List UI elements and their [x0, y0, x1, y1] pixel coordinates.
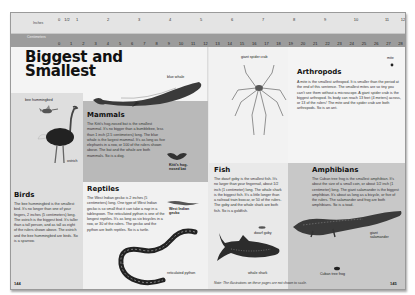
- page-title: Biggest and Smallest: [25, 50, 123, 78]
- birds-text: The bee hummingbird is the smallest bird…: [14, 202, 78, 244]
- caption-mite: mite: [387, 56, 394, 60]
- inch-tick-label: 10: [354, 17, 358, 22]
- caption-bee-hummingbird: bee hummingbird: [25, 98, 53, 102]
- blue-whale-illustration: [91, 80, 201, 108]
- cm-tick-label: 9: [168, 41, 170, 46]
- cm-tick-label: 12: [203, 41, 207, 46]
- amphibians-text: The Cuban tree frog is the smallest amph…: [312, 177, 400, 209]
- cuban-tree-frog-illustration: [333, 266, 341, 271]
- inch-tick-label: 9: [324, 17, 326, 22]
- inch-ruler: Inches 01/2123456789101112: [11, 13, 405, 34]
- caption-giant-salamander: giant salamander: [370, 231, 394, 239]
- dwarf-goby-illustration: [258, 226, 266, 229]
- caption-ostrich: ostrich: [67, 159, 78, 163]
- cm-tick-label: 15: [240, 41, 244, 46]
- cm-tick-label: 10: [179, 41, 183, 46]
- cm-tick-label: 3: [94, 41, 96, 46]
- fish-text: The dwarf goby is the smallest fish. It'…: [214, 177, 282, 214]
- cm-tick-label: 17: [264, 41, 268, 46]
- reptiles-heading: Reptiles: [87, 185, 119, 193]
- arthropods-text: A mite is the smallest arthropod. It is …: [297, 80, 401, 112]
- ostrich-illustration: [33, 105, 83, 165]
- page-number-right: 145: [390, 281, 397, 286]
- page-number-left: 144: [14, 281, 21, 286]
- spider-crab-illustration: [229, 63, 289, 138]
- book-spread: Inches 01/2123456789101112 Centimeters 0…: [10, 12, 406, 290]
- cm-tick-label: 25: [362, 41, 366, 46]
- inch-tick-label: 5: [200, 17, 202, 22]
- cm-tick-label: 20: [301, 41, 305, 46]
- caption-giant-spider-crab: giant spider crab: [241, 55, 268, 59]
- cm-tick-label: 27: [386, 41, 390, 46]
- cm-tick-label: 6: [131, 41, 133, 46]
- inch-tick-label: 4: [169, 17, 171, 22]
- cm-tick-label: 11: [191, 41, 195, 46]
- mite-illustration: [390, 63, 394, 67]
- cm-tick-label: 8: [155, 41, 157, 46]
- cm-tick-label: 23: [337, 41, 341, 46]
- caption-whale-shark: whale shark: [248, 271, 267, 275]
- gecko-illustration: [167, 199, 199, 207]
- mammals-text: The Kitti's hog-nosed bat is the smalles…: [87, 122, 167, 159]
- centimeters-label: Centimeters: [27, 35, 46, 39]
- cm-tick-label: 1: [70, 41, 72, 46]
- cm-tick-label: 24: [350, 41, 354, 46]
- cm-tick-label: 19: [289, 41, 293, 46]
- amphibians-heading: Amphibians: [312, 166, 358, 174]
- cm-tick-label: 26: [374, 41, 378, 46]
- arthropods-heading: Arthropods: [297, 68, 341, 76]
- inch-tick-label: 3: [138, 17, 140, 22]
- inch-tick-label: 12: [401, 17, 405, 22]
- cm-tick-label: 28: [398, 41, 402, 46]
- cm-tick-label: 4: [107, 41, 109, 46]
- inch-tick-label: 2: [107, 17, 109, 22]
- caption-cuban-tree-frog: Cuban tree frog: [320, 272, 345, 276]
- cm-tick-label: 5: [119, 41, 121, 46]
- python-illustration: [111, 228, 201, 288]
- birds-heading: Birds: [14, 191, 34, 199]
- inch-tick-label: 1: [76, 17, 78, 22]
- inch-tick-label: 6: [231, 17, 233, 22]
- inch-tick-label: 11: [385, 17, 389, 22]
- scale-note: Note: The illustrations on these pages a…: [214, 281, 307, 285]
- cm-tick-label: 0: [58, 41, 60, 46]
- mammals-heading: Mammals: [87, 111, 125, 119]
- caption-reticulated-python: reticulated python: [167, 271, 195, 275]
- cm-tick-label: 2: [82, 41, 84, 46]
- cm-tick-label: 18: [276, 41, 280, 46]
- inch-tick-label: 1/2: [64, 17, 70, 22]
- inch-tick-label: 8: [293, 17, 295, 22]
- cm-tick-label: 14: [228, 41, 232, 46]
- cm-tick-label: 7: [143, 41, 145, 46]
- cm-tick-label: 22: [325, 41, 329, 46]
- caption-blue-whale: blue whale: [167, 75, 184, 79]
- caption-kittis-bat: Kitti's hog-nosed bat: [169, 163, 191, 171]
- centimeter-ruler: Centimeters 0123456789101112131415161718…: [11, 34, 405, 47]
- cm-tick-label: 13: [215, 41, 219, 46]
- whale-shark-illustration: [211, 231, 281, 267]
- inches-label: Inches: [33, 21, 43, 25]
- cm-tick-label: 21: [313, 41, 317, 46]
- inch-tick-label: 0: [58, 17, 60, 22]
- cm-tick-label: 16: [252, 41, 256, 46]
- caption-west-indian-gecko: West Indian gecko: [169, 207, 193, 215]
- fish-heading: Fish: [214, 166, 230, 174]
- inch-tick-label: 7: [262, 17, 264, 22]
- bat-illustration: [167, 151, 187, 161]
